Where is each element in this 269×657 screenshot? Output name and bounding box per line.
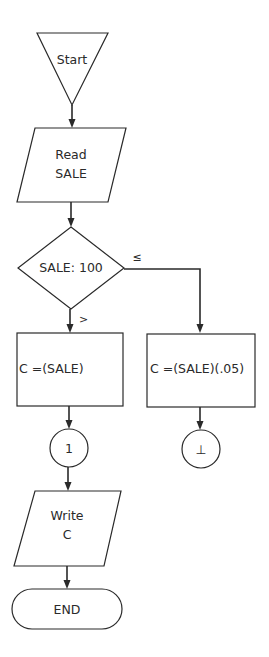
arrow-to-connector-inverted xyxy=(197,407,204,430)
output-label-line2: C xyxy=(63,527,72,542)
greater-symbol: > xyxy=(79,313,88,326)
less-equal-symbol: ≤ xyxy=(132,251,141,264)
start-node: Start xyxy=(37,33,108,105)
decision-label: SALE: 100 xyxy=(39,260,103,275)
output-label-line1: Write xyxy=(50,508,83,523)
connector-inverted-1: ⊥ xyxy=(182,430,220,468)
decision-node: SALE: 100 xyxy=(18,227,124,309)
arrow-read-to-decision xyxy=(68,202,75,227)
process-less-equal-label: C =(SALE)(.05) xyxy=(150,361,244,376)
end-node: END xyxy=(12,589,122,629)
branch-less-equal: ≤ xyxy=(124,251,204,333)
arrow-write-to-end xyxy=(64,566,71,589)
process-greater-label: C =(SALE) xyxy=(19,361,84,376)
arrow-to-connector-1 xyxy=(66,406,73,429)
start-label: Start xyxy=(57,52,88,67)
arrow-connector-to-write xyxy=(65,467,72,491)
flowchart-canvas: Start Read SALE SALE: 100 ≤ > C =(SALE) xyxy=(0,0,269,657)
arrow-start-to-read xyxy=(69,105,76,128)
output-node-write-c: Write C xyxy=(14,491,121,566)
end-label: END xyxy=(54,602,81,617)
connector-1: 1 xyxy=(50,429,88,467)
input-label-line1: Read xyxy=(55,147,86,162)
input-label-line2: SALE xyxy=(55,166,87,181)
process-node-less-equal: C =(SALE)(.05) xyxy=(147,334,255,407)
input-node-read-sale: Read SALE xyxy=(17,128,126,202)
branch-greater: > xyxy=(67,309,89,333)
connector-1-label: 1 xyxy=(65,441,73,456)
process-node-greater: C =(SALE) xyxy=(17,333,123,406)
connector-inverted-label: ⊥ xyxy=(196,442,207,457)
